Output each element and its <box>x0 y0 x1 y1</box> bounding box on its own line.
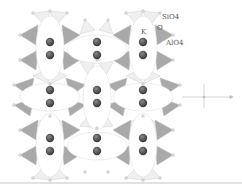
k-label: K <box>141 29 146 36</box>
alo4-label: AlO4 <box>166 40 184 47</box>
sio4-label: SiO4 <box>162 14 179 21</box>
crystal-structure <box>0 0 242 193</box>
bottom-divider <box>0 182 242 184</box>
axis-indicator <box>182 84 233 108</box>
o-label: O <box>157 25 163 32</box>
